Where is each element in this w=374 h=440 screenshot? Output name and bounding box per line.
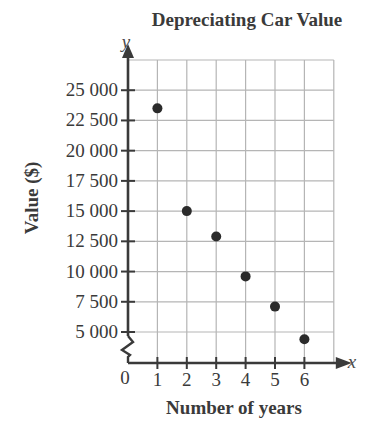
y-tick-labels: 5 0007 50010 00012 50015 00017 50020 000…	[66, 79, 118, 342]
x-tick-label: 5	[270, 369, 280, 390]
chart-title: Depreciating Car Value	[152, 9, 342, 30]
x-axis-title: Number of years	[166, 397, 302, 418]
data-point	[182, 206, 192, 216]
axis-break-icon	[122, 336, 133, 363]
x-tick-label: 4	[241, 369, 251, 390]
chart-canvas: Depreciating Car Value 5 0007 50010 0001…	[0, 0, 374, 440]
x-axis-variable: x	[347, 351, 357, 372]
x-tick-label: 1	[153, 369, 163, 390]
y-tick-label: 22 500	[66, 109, 118, 130]
data-point	[299, 334, 309, 344]
y-tick-label: 15 000	[66, 200, 118, 221]
x-tick-label: 2	[182, 369, 192, 390]
y-tick-label: 25 000	[66, 79, 118, 100]
y-tick-label: 5 000	[75, 321, 118, 342]
y-tick-label: 7 500	[75, 291, 118, 312]
x-tick-labels: 123456	[153, 369, 310, 390]
y-axis-variable: y	[120, 31, 131, 52]
x-tick-label: 3	[211, 369, 221, 390]
y-tick-label: 17 500	[66, 170, 118, 191]
x-tick-label: 6	[300, 369, 310, 390]
y-tick-label: 12 500	[66, 230, 118, 251]
y-axis-title: Value ($)	[21, 162, 43, 235]
y-tick-label: 10 000	[66, 261, 118, 282]
data-points	[152, 103, 309, 344]
axes	[121, 44, 352, 369]
scatter-chart: Depreciating Car Value 5 0007 50010 0001…	[0, 0, 374, 440]
data-point	[211, 231, 221, 241]
data-point	[152, 103, 162, 113]
data-point	[270, 302, 280, 312]
y-tick-label: 20 000	[66, 140, 118, 161]
data-point	[241, 271, 251, 281]
origin-label: 0	[120, 367, 130, 388]
